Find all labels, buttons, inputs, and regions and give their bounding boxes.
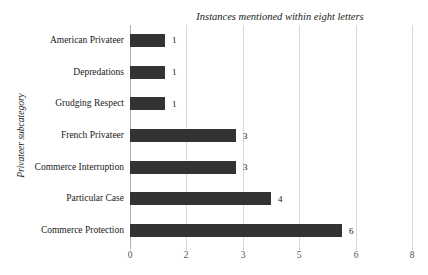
category-label: Depredations [0,67,124,78]
category-label: Grudging Respect [0,98,124,109]
bar-rows: 1113346 [130,25,412,247]
x-axis-tick-label: 6 [341,250,371,261]
x-axis-tick-label: 8 [397,250,427,261]
bar-value-label: 1 [172,99,177,109]
gridline [412,25,413,247]
x-axis-tick-label: 5 [284,250,314,261]
category-labels: American PrivateerDepredationsGrudging R… [0,25,124,247]
category-label: Commerce Interruption [0,162,124,173]
category-label: French Privateer [0,130,124,141]
bar-chart: Instances mentioned within eight letters… [0,0,428,275]
bar-row[interactable]: 1 [130,97,412,110]
bar-row[interactable]: 1 [130,66,412,79]
x-axis-tick-label: 2 [171,250,201,261]
category-label: Commerce Protection [0,225,124,236]
category-label: American Privateer [0,35,124,46]
bar[interactable] [130,129,236,142]
bar-row[interactable]: 6 [130,224,412,237]
category-label: Particular Case [0,193,124,204]
bar[interactable] [130,161,236,174]
bar-value-label: 4 [278,194,283,204]
x-axis-tick-label: 3 [228,250,258,261]
bar[interactable] [130,34,165,47]
bar-row[interactable]: 1 [130,34,412,47]
bar-value-label: 1 [172,67,177,77]
bar-row[interactable]: 3 [130,161,412,174]
bar-value-label: 6 [349,226,354,236]
bar-value-label: 3 [243,162,248,172]
bar[interactable] [130,192,271,205]
plot-area: 1113346 [130,25,412,247]
bar-row[interactable]: 4 [130,192,412,205]
bar-row[interactable]: 3 [130,129,412,142]
bar-value-label: 1 [172,35,177,45]
bar[interactable] [130,97,165,110]
bar-value-label: 3 [243,131,248,141]
bar[interactable] [130,66,165,79]
chart-title: Instances mentioned within eight letters [145,11,415,23]
x-axis-tick-label: 0 [115,250,145,261]
x-axis-tick-labels: 023568 [130,250,412,266]
bar[interactable] [130,224,342,237]
